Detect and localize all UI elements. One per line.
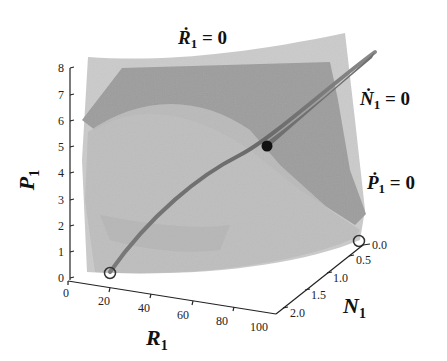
- label-r1-nullcline: Ṙ1 = 0: [177, 27, 227, 51]
- svg-text:6: 6: [58, 114, 64, 128]
- phase-space-3d-plot: 8 7 6 5 4 3 2 1 0 P1 0 20 40 60 80 100 R…: [0, 0, 447, 361]
- svg-text:40: 40: [138, 301, 150, 315]
- svg-text:0: 0: [58, 271, 64, 285]
- svg-text:20: 20: [98, 294, 110, 308]
- svg-text:0.0: 0.0: [372, 238, 387, 252]
- svg-text:2.0: 2.0: [290, 306, 305, 320]
- svg-text:0.5: 0.5: [356, 253, 371, 267]
- svg-text:100: 100: [250, 320, 268, 334]
- z-axis-title: P1: [14, 170, 42, 191]
- svg-text:3: 3: [58, 193, 64, 207]
- svg-text:2: 2: [58, 219, 64, 233]
- svg-text:1: 1: [58, 245, 64, 259]
- y-axis-title: N1: [342, 293, 366, 321]
- svg-text:1.0: 1.0: [333, 271, 348, 285]
- svg-text:P1: P1: [14, 170, 42, 191]
- svg-text:7: 7: [58, 88, 64, 102]
- svg-text:8: 8: [58, 61, 64, 75]
- svg-text:1.5: 1.5: [311, 288, 326, 302]
- svg-text:80: 80: [216, 314, 228, 328]
- x-axis-tick-labels: 0 20 40 60 80 100: [63, 286, 268, 334]
- label-n1-nullcline: Ṅ1 = 0: [359, 88, 410, 112]
- x-axis-title: R1: [145, 325, 168, 353]
- svg-text:4: 4: [58, 166, 64, 180]
- equilibrium-point: [262, 141, 273, 152]
- z-axis: [70, 67, 74, 280]
- svg-text:60: 60: [177, 308, 189, 322]
- svg-text:5: 5: [58, 140, 64, 154]
- svg-text:0: 0: [63, 286, 69, 300]
- label-p1-nullcline: Ṗ1 = 0: [366, 172, 415, 196]
- z-axis-tick-labels: 8 7 6 5 4 3 2 1 0: [58, 61, 64, 285]
